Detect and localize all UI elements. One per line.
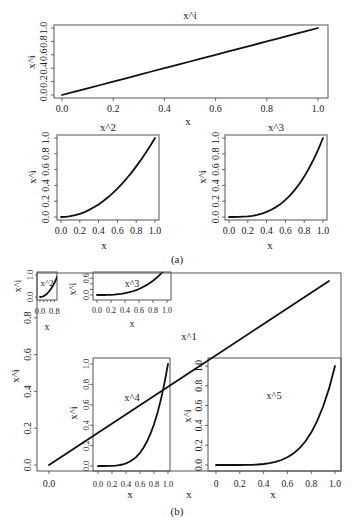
y-tick-label: 0.2 — [81, 440, 91, 451]
x-tick-label: 0.8 — [298, 225, 311, 236]
x-tick-label: 0.4 — [158, 103, 171, 114]
y-tick-label: 0.0 — [194, 459, 204, 471]
panel-title: x^2 — [100, 121, 116, 133]
y-tick-label: 0.2 — [38, 75, 49, 88]
y-tick-label: 0.4 — [210, 179, 221, 192]
x-tick-label: 1.0 — [162, 306, 172, 315]
y-axis-label: x^i — [67, 406, 79, 420]
x-tick-label: 0.0 — [43, 478, 56, 489]
panel-title: x^4 — [124, 392, 140, 403]
y-tick-label: 0.4 — [38, 62, 49, 75]
y-axis-label: x^i — [12, 280, 23, 293]
y-tick-label: 0.8 — [22, 312, 33, 325]
panel-title: x^1 — [181, 331, 196, 342]
y-tick-label: 0.8 — [210, 148, 221, 161]
x-tick-label: 0.4 — [260, 225, 273, 236]
x-tick-label: 0.8 — [148, 306, 158, 315]
y-tick-label: 1.0 — [81, 359, 91, 370]
y-tick-label: 0.8 — [40, 148, 51, 161]
x-axis-label: x — [267, 239, 273, 251]
x-tick-label: 0.6 — [111, 225, 124, 236]
y-tick-label: 0.0 — [82, 290, 91, 300]
x-tick-label: 1.0 — [317, 225, 330, 236]
y-tick-label: 0.0 — [22, 459, 33, 472]
y-tick-label: 1.0 — [40, 132, 51, 145]
x-tick-label: 0.2 — [106, 306, 116, 315]
x-tick-label: 0.2 — [107, 479, 118, 489]
x-tick-label: 0.4 — [92, 225, 105, 236]
x-tick-label: 0.0 — [56, 103, 69, 114]
y-axis-label: x^i — [181, 409, 193, 423]
y-tick-label: 0.0 — [40, 211, 51, 224]
x-tick-label: 1.0 — [312, 103, 325, 114]
x-tick-label: 1.0 — [163, 479, 174, 489]
x-tick-label: 0 — [214, 479, 219, 489]
y-tick-label: 0.6 — [210, 163, 221, 176]
x-tick-label: 0.0 — [55, 225, 68, 236]
x-tick-label: 0.6 — [279, 225, 292, 236]
y-tick-label: 0.2 — [194, 439, 204, 451]
y-axis-label: x^i — [9, 369, 21, 383]
y-tick-label: 0.8 — [81, 379, 91, 390]
x-axis-label: x — [130, 318, 135, 329]
y-axis-label: x^i — [67, 283, 78, 296]
x-tick-label: 0.6 — [281, 479, 293, 489]
x-tick-label: 0.6 — [209, 103, 222, 114]
y-tick-label: 0.6 — [22, 348, 33, 361]
x-axis-label: x — [127, 488, 133, 500]
x-tick-label: 0.4 — [121, 479, 132, 489]
x-axis-label: x — [185, 115, 191, 127]
y-tick-label: 0.0 — [25, 292, 35, 303]
x-tick-label: 0.8 — [49, 306, 60, 316]
x-axis-label: x — [270, 488, 276, 500]
y-tick-label: 0.6 — [81, 399, 91, 410]
x-tick-label: 0.8 — [149, 479, 160, 489]
x-tick-label: 0.2 — [107, 103, 120, 114]
x-axis-label: x — [45, 321, 50, 332]
y-tick-label: 0.2 — [40, 195, 51, 208]
y-tick-label: 0.6 — [38, 49, 49, 62]
x-tick-label: 0.8 — [305, 479, 317, 489]
x-tick-label: 1.0 — [149, 225, 162, 236]
x-tick-label: 0.6 — [135, 479, 146, 489]
y-tick-label: 1.0 — [210, 132, 221, 145]
caption-b: (b) — [171, 505, 184, 518]
panel-title: x^3 — [268, 121, 285, 133]
y-tick-label: 0.0 — [81, 461, 91, 472]
panel-title: x^3 — [125, 278, 140, 289]
panel-title: x^i — [183, 9, 197, 21]
x-tick-label: 0.2 — [242, 225, 255, 236]
y-tick-label: 0.2 — [22, 422, 33, 435]
x-tick-label: 0.2 — [234, 479, 246, 489]
caption-a: (a) — [171, 253, 184, 266]
y-tick-label: 0.2 — [210, 195, 221, 208]
x-tick-label: 0.0 — [223, 225, 236, 236]
x-axis-label: x — [101, 239, 107, 251]
y-tick-label: 0.0 — [210, 211, 221, 224]
y-tick-label: 0.4 — [40, 179, 51, 192]
y-tick-label: 0.8 — [194, 380, 204, 392]
x-tick-label: 0.0 — [92, 306, 102, 315]
y-tick-label: 0.8 — [38, 35, 49, 48]
x-tick-label: 0.0 — [93, 479, 104, 489]
x-tick-label: 0.0 — [35, 306, 46, 316]
y-tick-label: 0.6 — [40, 163, 51, 176]
y-tick-label: 1.0 — [38, 22, 49, 35]
x-tick-label: 1.0 — [329, 479, 341, 489]
y-tick-label: 0.0 — [38, 89, 49, 102]
y-axis-label: x^i — [196, 170, 208, 184]
x-tick-label: 0.8 — [261, 103, 274, 114]
x-tick-label: 0.8 — [130, 225, 143, 236]
y-tick-label: 0.6 — [194, 399, 204, 411]
x-axis-label: x — [186, 488, 192, 500]
y-axis-label: x^i — [25, 55, 37, 69]
y-tick-label: 0.6 — [82, 273, 91, 283]
x-tick-label: 0.2 — [74, 225, 87, 236]
x-tick-label: 0.4 — [120, 306, 130, 315]
y-tick-label: 0.4 — [194, 419, 204, 431]
y-tick-label: 1.0 — [25, 270, 35, 281]
figure: x^i x x^i 0.00.20.40.60.81.00.00.20.40.6… — [0, 0, 353, 528]
y-axis-label: x^i — [26, 170, 38, 184]
y-tick-label: 0.4 — [81, 419, 91, 430]
panel-title: x^5 — [266, 390, 281, 401]
